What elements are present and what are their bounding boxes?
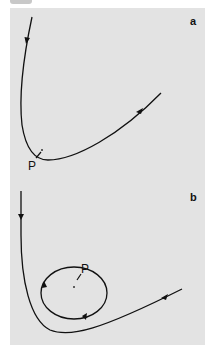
panel-label-b: b — [190, 191, 197, 203]
arrow-loop-up-icon — [82, 313, 87, 320]
point-p-label-a: P — [28, 159, 36, 173]
trajectory-curve-b — [21, 191, 182, 333]
panel-label-a: a — [190, 15, 197, 27]
panel-b: P b — [18, 191, 197, 333]
point-p-dot-a — [41, 149, 43, 151]
panel-a: P a — [21, 15, 197, 173]
arrow-right-icon — [136, 108, 143, 114]
arrow-down-icon — [18, 214, 24, 220]
loop-circle-b — [41, 267, 107, 319]
point-p-dot-b — [73, 286, 75, 288]
trajectory-curve-a — [21, 17, 161, 160]
diagram-canvas: P a P b — [0, 0, 217, 348]
point-p-label-b: P — [81, 262, 89, 276]
